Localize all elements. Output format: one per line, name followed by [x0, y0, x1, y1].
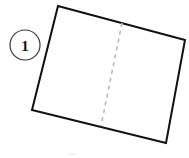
- figure-canvas: 1 ...: [0, 0, 189, 158]
- caption-fragment: ...: [68, 145, 77, 157]
- figure-container: 1 ...: [0, 0, 189, 158]
- label-badge-number: 1: [21, 38, 29, 54]
